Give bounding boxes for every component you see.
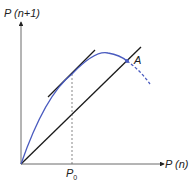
diagram-canvas xyxy=(0,0,191,184)
tangent-line xyxy=(48,50,95,97)
y-axis-label: P (n+1) xyxy=(4,7,40,19)
equilibrium-point-A xyxy=(125,59,129,63)
x-axis-label: P (n) xyxy=(165,158,188,170)
growth-curve xyxy=(21,53,127,164)
point-A-label: A xyxy=(134,54,141,66)
p0-tick-label: P0 xyxy=(66,167,77,181)
